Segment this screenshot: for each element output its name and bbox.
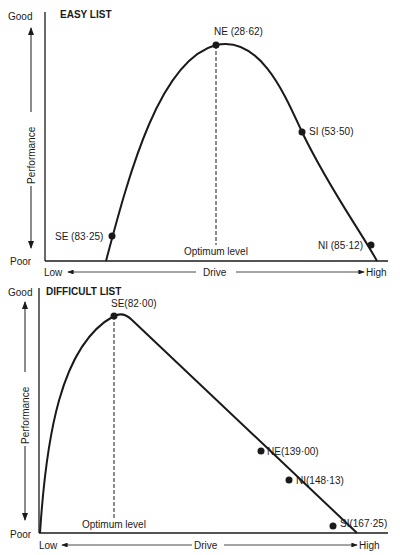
difficult-point-se	[111, 313, 118, 320]
difficult-point-si	[330, 523, 337, 530]
easy-point-se	[109, 233, 116, 240]
easy-optimum-label: Optimum level	[184, 246, 248, 257]
difficult-low-label: Low	[39, 540, 58, 551]
difficult-poor-label: Poor	[10, 529, 32, 540]
easy-label-ne: NE (28·62)	[214, 26, 263, 37]
difficult-point-ne	[258, 448, 265, 455]
easy-poor-label: Poor	[10, 256, 32, 267]
difficult-label-se: SE(82·00)	[111, 298, 157, 309]
easy-point-si	[299, 129, 306, 136]
easy-point-ni	[368, 242, 375, 249]
difficult-list-chart: Good Poor Performance DIFFICULT LIST Opt…	[8, 286, 388, 551]
easy-good-label: Good	[8, 11, 32, 22]
difficult-label-si: SI(167·25)	[340, 518, 387, 529]
difficult-drive-label: Drive	[194, 540, 218, 551]
difficult-label-ne: NE(139·00)	[267, 446, 319, 457]
easy-performance-curve	[106, 44, 377, 261]
easy-drive-label: Drive	[203, 267, 227, 278]
difficult-optimum-label: Optimum level	[82, 519, 146, 530]
drive-performance-diagram: Good Poor Performance EASY LIST Optimum …	[0, 0, 400, 555]
easy-performance-label: Performance	[26, 126, 37, 184]
easy-label-se: SE (83·25)	[55, 231, 103, 242]
difficult-performance-curve	[40, 314, 357, 533]
difficult-title: DIFFICULT LIST	[46, 286, 121, 297]
difficult-performance-label: Performance	[20, 386, 31, 444]
easy-label-ni: NI (85·12)	[318, 240, 363, 251]
easy-high-label: High	[366, 267, 387, 278]
easy-list-chart: Good Poor Performance EASY LIST Optimum …	[8, 9, 388, 278]
easy-low-label: Low	[44, 267, 63, 278]
difficult-high-label: High	[359, 540, 380, 551]
difficult-good-label: Good	[8, 287, 32, 298]
difficult-point-ni	[286, 477, 293, 484]
difficult-label-ni: NI(148·13)	[296, 475, 344, 486]
easy-point-ne	[213, 42, 220, 49]
easy-title: EASY LIST	[60, 9, 112, 20]
easy-label-si: SI (53·50)	[309, 126, 353, 137]
